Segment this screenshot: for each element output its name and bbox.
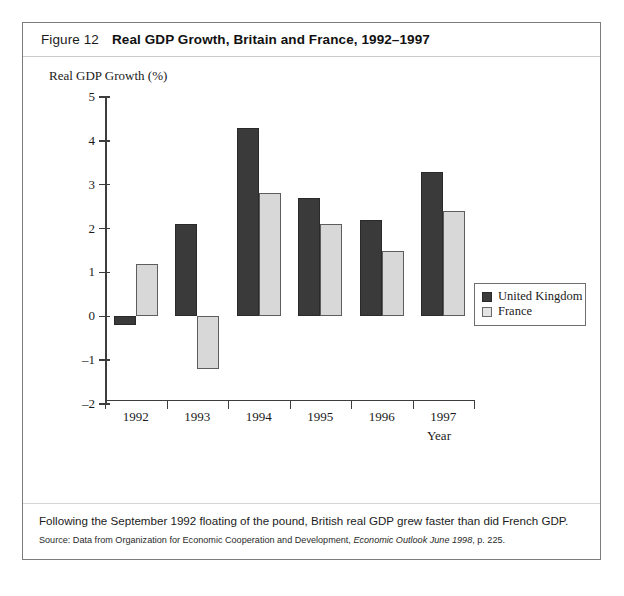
x-axis-title: Year [427, 428, 451, 444]
bar-uk-1996 [360, 220, 382, 316]
x-axis-tick [105, 400, 106, 409]
y-axis-tick [99, 316, 110, 317]
source-suffix: , p. 225. [472, 535, 505, 545]
legend-swatch-icon [482, 307, 492, 317]
legend-france: France [482, 304, 578, 319]
chart-plot-area: Real GDP Growth (%) 543210–1–2 199219931… [23, 57, 600, 504]
y-axis-tick-label: 5 [55, 89, 95, 105]
source-prefix: Source: Data from Organization for Econo… [39, 535, 353, 545]
figure-title: Real GDP Growth, Britain and France, 199… [112, 32, 430, 47]
y-axis-tick-label: 2 [55, 221, 95, 237]
bar-uk-1997 [421, 172, 443, 317]
x-axis-tick [413, 400, 414, 409]
x-axis-tick [474, 400, 475, 409]
chart-legend: United KingdomFrance [474, 283, 586, 326]
bar-france-1992 [136, 264, 158, 317]
y-axis-tick-label: 3 [55, 177, 95, 193]
y-axis-tick-label: 4 [55, 133, 95, 149]
y-axis-tick-label: 1 [55, 264, 95, 280]
figure-header: Figure 12 Real GDP Growth, Britain and F… [23, 23, 600, 57]
bar-france-1994 [259, 193, 281, 316]
x-axis-tick-label: 1996 [350, 409, 414, 425]
x-axis-tick [290, 400, 291, 409]
x-axis-tick-label: 1997 [411, 409, 475, 425]
x-axis-tick-label: 1995 [288, 409, 352, 425]
bar-uk-1995 [298, 198, 320, 316]
source-publication: Economic Outlook June 1998 [353, 535, 472, 545]
figure-source: Source: Data from Organization for Econo… [39, 535, 584, 547]
figure-footer: Following the September 1992 floating of… [23, 503, 600, 559]
y-axis-tick [99, 359, 110, 360]
y-axis-tick [99, 272, 110, 273]
bar-france-1993 [197, 316, 219, 369]
legend-swatch-icon [482, 292, 492, 302]
y-axis-line [105, 97, 107, 404]
y-axis-tick-label: –1 [55, 352, 95, 368]
x-axis-tick [228, 400, 229, 409]
y-axis-tick [99, 140, 110, 141]
figure-number-label: Figure 12 [41, 32, 99, 47]
bar-uk-1994 [237, 128, 259, 317]
x-axis-tick-label: 1992 [104, 409, 168, 425]
legend-uk: United Kingdom [482, 289, 578, 304]
y-axis-tick [99, 228, 110, 229]
y-axis-tick-label: 0 [55, 308, 95, 324]
y-axis-tick [99, 184, 110, 185]
bar-france-1997 [443, 211, 465, 316]
bar-france-1995 [320, 224, 342, 316]
bar-uk-1992 [114, 316, 136, 325]
x-axis-tick [351, 400, 352, 409]
y-axis-tick [99, 96, 110, 97]
bar-france-1996 [382, 251, 404, 317]
figure-caption: Following the September 1992 floating of… [39, 513, 584, 528]
bar-uk-1993 [175, 224, 197, 316]
legend-label: United Kingdom [498, 289, 582, 304]
y-axis-title: Real GDP Growth (%) [49, 68, 167, 84]
y-axis-tick-label: –2 [55, 396, 95, 412]
figure-frame: Figure 12 Real GDP Growth, Britain and F… [22, 22, 601, 560]
legend-label: France [498, 304, 532, 319]
x-axis-tick-label: 1993 [165, 409, 229, 425]
x-axis-tick-label: 1994 [227, 409, 291, 425]
x-axis-tick [167, 400, 168, 409]
